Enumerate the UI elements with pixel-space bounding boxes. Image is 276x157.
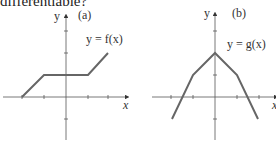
graph-b: y (b) y = g(x) x [152, 6, 276, 140]
x-axis-label: x [271, 98, 276, 112]
graph-a: y (a) y = f(x) x [3, 8, 129, 140]
function-label-g: y = g(x) [227, 37, 266, 51]
function-label-f: y = f(x) [86, 32, 123, 46]
graphs-figure: y (a) y = f(x) x y (b) y = g(x) x [0, 0, 276, 157]
y-axis-label: y [54, 9, 60, 23]
function-f-curve [22, 53, 108, 97]
panel-label-a: (a) [78, 8, 91, 22]
panel-label-b: (b) [232, 6, 246, 20]
y-axis-label: y [204, 6, 210, 20]
x-axis-label: x [122, 98, 129, 112]
